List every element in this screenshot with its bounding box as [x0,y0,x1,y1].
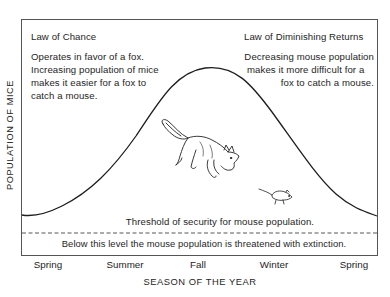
law-of-diminishing-returns-title: Law of Diminishing Returns [244,30,363,43]
diagram-graphics [0,0,390,297]
threshold-label: Threshold of security for mouse populati… [126,215,314,228]
y-axis-label: POPULATION OF MICE [5,80,15,190]
x-axis-title: SEASON OF THE YEAR [144,276,257,287]
x-tick-spring: Spring [34,259,62,270]
diminishing-returns-line-3: fox to catch a mouse. [281,76,374,89]
x-tick-fall: Fall [190,259,206,270]
law-of-chance-line-3: makes it easier for a fox to [31,76,146,89]
extinction-label: Below this level the mouse population is… [62,237,347,250]
diminishing-returns-line-1: Decreasing mouse population [244,50,374,63]
fox-icon [162,120,239,178]
x-tick-spring-end: Spring [340,259,368,270]
x-tick-summer: Summer [106,259,143,270]
law-of-chance-line-2: Increasing population of mice [31,63,159,76]
x-tick-winter: Winter [260,259,288,270]
mouse-icon [259,189,292,204]
law-of-chance-title: Law of Chance [31,30,96,43]
diminishing-returns-line-2: makes it more difficult for a [247,63,364,76]
law-of-chance-line-4: catch a mouse. [31,89,97,102]
law-of-chance-line-1: Operates in favor of a fox. [31,50,144,63]
